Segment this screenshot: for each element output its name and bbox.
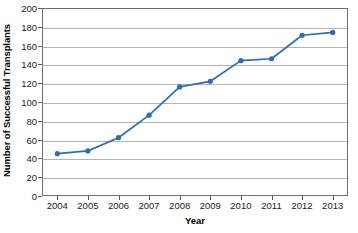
- y-axis-tick-label: 100: [21, 97, 37, 108]
- x-axis-tick-label: 2013: [322, 200, 343, 211]
- y-axis-tick-label: 40: [26, 153, 37, 164]
- x-axis-tick-label: 2004: [47, 200, 68, 211]
- x-axis-tick-label: 2006: [108, 200, 129, 211]
- y-axis-title: Number of Successful Transplants: [0, 0, 14, 200]
- data-point-marker: [300, 33, 305, 38]
- y-axis-tick-label: 20: [26, 172, 37, 183]
- y-axis-tick-label: 120: [21, 78, 37, 89]
- data-point-marker: [116, 135, 121, 140]
- x-axis-title: Year: [42, 215, 348, 226]
- y-axis-title-label: Number of Successful Transplants: [2, 23, 13, 176]
- y-axis-tick-label: 60: [26, 134, 37, 145]
- y-axis-tick-label: 200: [21, 3, 37, 14]
- x-axis-tick-label: 2012: [292, 200, 313, 211]
- data-point-marker: [147, 113, 152, 118]
- line-chart: Number of Successful Transplants 2001801…: [0, 0, 358, 233]
- data-point-marker: [208, 79, 213, 84]
- y-axis-tick-label: 0: [32, 191, 37, 202]
- x-axis-tick-label: 2011: [261, 200, 281, 211]
- x-axis-tick-label: 2009: [200, 200, 221, 211]
- data-point-marker: [85, 148, 90, 153]
- y-axis-tick-label: 180: [21, 21, 37, 32]
- y-axis-tick-label: 160: [21, 40, 37, 51]
- data-point-marker: [238, 58, 243, 63]
- x-axis-tick-labels: 2004200520062007200820092010201120122013: [42, 200, 348, 214]
- x-axis-tick-label: 2005: [77, 200, 98, 211]
- series-line: [57, 32, 332, 153]
- x-axis-tick-label: 2008: [169, 200, 190, 211]
- data-point-marker: [55, 151, 60, 156]
- series-layer: [42, 8, 348, 196]
- x-axis-tick-label: 2010: [230, 200, 251, 211]
- x-axis-tick-label: 2007: [139, 200, 160, 211]
- y-axis-tick-labels: 200180160140120100806040200: [13, 8, 40, 196]
- data-point-marker: [269, 56, 274, 61]
- data-point-marker: [177, 84, 182, 89]
- data-point-marker: [330, 30, 335, 35]
- y-axis-tick-label: 140: [21, 59, 37, 70]
- y-axis-tick-label: 80: [26, 115, 37, 126]
